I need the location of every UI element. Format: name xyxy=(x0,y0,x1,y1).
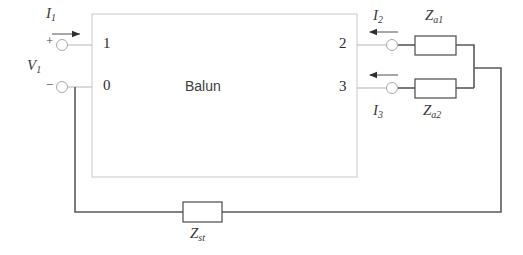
port-label-3: 3 xyxy=(339,79,347,94)
balun-block-label: Balun xyxy=(185,79,221,93)
terminal-positive xyxy=(57,40,68,51)
impedance-za2-box xyxy=(415,79,456,98)
impedance-label-za2: Za2 xyxy=(423,103,441,120)
port-label-2: 2 xyxy=(339,36,347,51)
terminal-port3 xyxy=(387,83,398,94)
balun-block xyxy=(92,14,357,177)
current-arrow-i1 xyxy=(52,31,80,37)
port-label-1: 1 xyxy=(103,36,111,51)
wiring-layer xyxy=(0,0,523,255)
polarity-plus-sign: + xyxy=(46,34,53,47)
impedance-label-za1: Za1 xyxy=(425,8,443,25)
wire-za1-to-junction xyxy=(456,45,474,88)
impedance-zst-box xyxy=(183,202,222,222)
impedance-label-zst: Zst xyxy=(190,226,205,243)
current-label-i1: I1 xyxy=(46,6,56,23)
port-label-0: 0 xyxy=(103,78,111,93)
polarity-minus-sign: − xyxy=(46,78,53,91)
current-arrow-i2 xyxy=(369,29,398,35)
current-arrow-i3 xyxy=(369,72,398,78)
current-label-i2: I2 xyxy=(373,8,383,25)
circuit-diagram: I1 V1 + − 1 0 Balun 2 3 I2 I3 Za1 Za2 Zs… xyxy=(0,0,523,255)
terminal-port2 xyxy=(387,40,398,51)
terminal-negative xyxy=(57,82,68,93)
voltage-label-v1: V1 xyxy=(27,58,41,75)
current-label-i3: I3 xyxy=(373,103,383,120)
impedance-za1-box xyxy=(415,36,456,55)
